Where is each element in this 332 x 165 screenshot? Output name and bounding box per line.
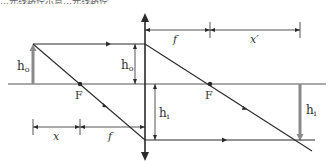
lens-arrow-up-icon xyxy=(141,13,149,22)
image-height-label-lens: hi xyxy=(159,106,170,121)
focal-label-left: F xyxy=(75,89,83,102)
image-height-label-right: hi xyxy=(306,103,317,118)
lens-arrow-down-icon xyxy=(141,152,149,161)
image-height-dimension xyxy=(153,84,157,140)
focal-point-right xyxy=(208,82,212,86)
lens xyxy=(141,13,149,161)
object-arrow xyxy=(30,44,37,84)
dim-label-x: x xyxy=(53,130,60,143)
focal-label-right: F xyxy=(205,89,213,102)
dim-label-x-prime: x′ xyxy=(250,33,259,46)
object-height-label-left: ho xyxy=(17,59,30,74)
object-height-label-lens: ho xyxy=(121,58,134,73)
image-arrow xyxy=(297,84,304,141)
dim-label-f-top: f xyxy=(172,33,179,46)
focal-point-left xyxy=(78,82,82,86)
object-height-dimension xyxy=(133,44,137,84)
object-arrowhead-icon xyxy=(30,44,37,51)
top-dimension xyxy=(145,22,300,38)
lens-diagram: F F ho ho hi hi f x′ x f xyxy=(0,0,332,165)
dim-label-f-bottom: f xyxy=(107,130,114,143)
bottom-dimension xyxy=(33,119,145,135)
